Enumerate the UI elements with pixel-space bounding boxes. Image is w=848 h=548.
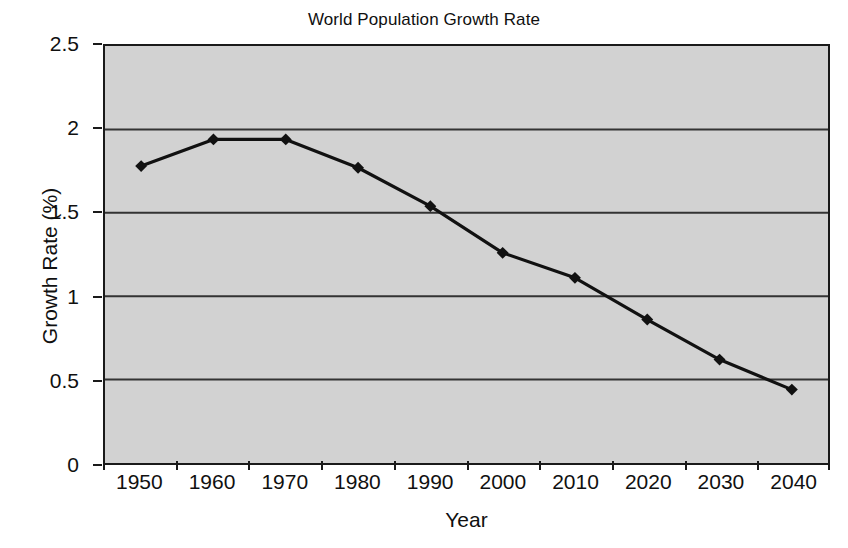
x-axis-tick-mark <box>394 461 396 470</box>
y-axis-tick-label: 2.5 <box>50 32 79 56</box>
gridlines-group <box>105 129 828 379</box>
data-series-line <box>141 139 792 389</box>
y-axis-tick-label: 0 <box>67 453 79 477</box>
x-axis-tick-mark <box>321 461 323 470</box>
chart-figure: World Population Growth Rate 00.511.522.… <box>0 0 848 548</box>
series-line <box>141 139 792 389</box>
plot-area <box>103 44 830 465</box>
x-axis-title: Year <box>103 508 830 532</box>
x-axis-tick-mark <box>176 461 178 470</box>
y-axis-tick-mark <box>93 211 102 213</box>
y-axis-tick-mark <box>93 380 102 382</box>
x-axis-tick-mark <box>103 461 105 470</box>
y-axis-tick-label: 2 <box>67 116 79 140</box>
y-axis-tick-mark <box>93 464 102 466</box>
x-axis-tick-label: 2030 <box>698 470 745 494</box>
x-axis-tick-label: 2040 <box>770 470 817 494</box>
x-axis-tick-mark <box>757 461 759 470</box>
x-axis-tick-label: 1950 <box>116 470 163 494</box>
y-axis-tick-mark <box>93 296 102 298</box>
x-axis-tick-label: 1990 <box>407 470 454 494</box>
data-point-marker <box>714 354 726 366</box>
x-axis-tick-mark <box>467 461 469 470</box>
x-axis-tick-mark <box>248 461 250 470</box>
y-axis-tick-label: 1 <box>67 285 79 309</box>
x-axis-tick-label: 1960 <box>189 470 236 494</box>
data-point-marker <box>135 160 147 172</box>
x-axis-tick-mark <box>612 461 614 470</box>
x-axis-tick-label: 2010 <box>552 470 599 494</box>
y-axis-tick-mark <box>93 43 102 45</box>
data-point-markers <box>135 133 798 395</box>
x-axis-tick-label: 2020 <box>625 470 672 494</box>
x-axis-tick-mark <box>828 461 830 470</box>
x-axis-tick-label: 2000 <box>479 470 526 494</box>
y-axis-tick-mark <box>93 127 102 129</box>
data-point-marker <box>352 162 364 174</box>
x-axis-tick-label: 1980 <box>334 470 381 494</box>
x-axis-tick-mark <box>685 461 687 470</box>
y-axis-title: Growth Rate (%) <box>38 56 62 476</box>
data-point-marker <box>207 133 219 145</box>
x-axis-tick-mark <box>539 461 541 470</box>
x-axis-tick-label: 1970 <box>261 470 308 494</box>
data-point-marker <box>280 133 292 145</box>
chart-title: World Population Growth Rate <box>0 10 848 30</box>
data-point-marker <box>786 384 798 396</box>
x-axis: 1950196019701980199020002010202020302040 <box>103 470 830 500</box>
plot-svg <box>105 46 828 463</box>
